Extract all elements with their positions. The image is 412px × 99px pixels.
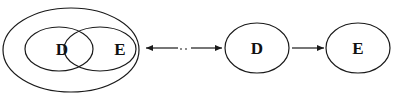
bidirectional-arrow	[146, 48, 222, 49]
diagram-canvas: D E D E	[0, 0, 412, 99]
right-group: D E	[225, 23, 390, 73]
left-group: D E	[3, 8, 139, 92]
node-d-label: D	[251, 39, 263, 58]
node-e-label: E	[352, 39, 363, 58]
overlap-label-e: E	[114, 40, 125, 59]
overlap-label-d: D	[56, 40, 68, 59]
